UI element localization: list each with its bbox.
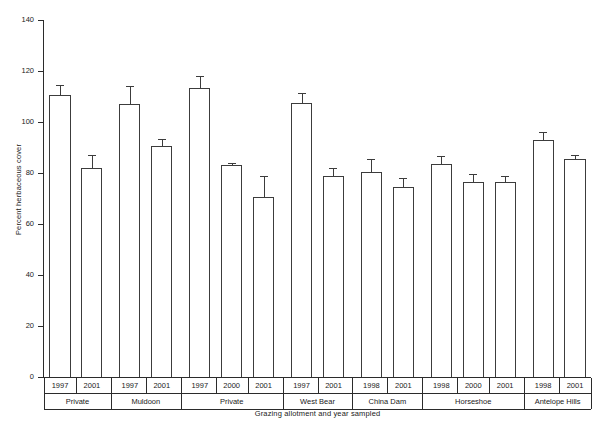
error-bar-cap: [539, 132, 547, 133]
bar: [323, 176, 344, 377]
error-bar-stem: [200, 76, 201, 87]
error-bar-stem: [473, 174, 474, 182]
error-bar-cap: [228, 163, 236, 164]
y-axis-tick: [38, 377, 43, 378]
x-axis-cell-divider: [387, 378, 388, 393]
x-axis-year-label: 2001: [318, 378, 350, 393]
x-axis-group-divider: [181, 378, 182, 409]
x-axis-year-label: 2001: [559, 378, 591, 393]
y-axis-tick: [38, 173, 43, 174]
x-axis-cell-divider: [489, 378, 490, 393]
bar: [151, 146, 172, 377]
error-bar-cap: [437, 156, 445, 157]
x-axis-year-label: 1997: [286, 378, 318, 393]
x-axis-title: Grazing allotment and year sampled: [44, 409, 591, 418]
y-axis-tick-label: 20: [4, 321, 34, 330]
error-bar-cap: [298, 93, 306, 94]
x-axis-year-label: 1998: [425, 378, 457, 393]
bar: [221, 165, 242, 377]
error-bar-cap: [469, 174, 477, 175]
error-bar-cap: [399, 178, 407, 179]
x-axis-group-label: China Dam: [352, 394, 422, 409]
y-axis-tick-label: 0: [4, 372, 34, 381]
y-axis-tick: [38, 326, 43, 327]
error-bar-cap: [196, 76, 204, 77]
bar: [495, 182, 516, 377]
x-axis-group-divider: [524, 378, 525, 409]
error-bar-cap: [260, 176, 268, 177]
bar: [463, 182, 484, 377]
x-axis-cell-divider: [248, 378, 249, 393]
x-axis-group-label: Horseshoe: [422, 394, 524, 409]
y-axis-tick: [38, 122, 43, 123]
x-axis-label-table: 19972001Private19972001Muldoon1997200020…: [44, 377, 591, 409]
x-axis-group-divider: [591, 378, 592, 409]
x-axis-cell-divider: [457, 378, 458, 393]
y-axis-tick: [38, 20, 43, 21]
x-axis-year-label: 2000: [457, 378, 489, 393]
x-axis-cell-divider: [318, 378, 319, 393]
error-bar-stem: [162, 139, 163, 147]
y-axis-title: Percent herbaceous cover: [14, 80, 23, 300]
x-axis-year-label: 2001: [248, 378, 280, 393]
x-axis-group-label: Antelope Hills: [524, 394, 591, 409]
x-axis-cell-divider: [559, 378, 560, 393]
x-axis-year-label: 1997: [114, 378, 146, 393]
y-axis-tick-label: 40: [4, 270, 34, 279]
error-bar-stem: [441, 156, 442, 164]
bar: [564, 159, 585, 377]
x-axis-year-label: 2001: [387, 378, 419, 393]
x-axis-group-divider: [422, 378, 423, 409]
x-axis-cell-divider: [76, 378, 77, 393]
error-bar-stem: [60, 85, 61, 95]
x-axis-cell-divider: [146, 378, 147, 393]
y-axis-tick: [38, 224, 43, 225]
y-axis-tick-label: 100: [4, 117, 34, 126]
error-bar-stem: [333, 168, 334, 176]
bar: [253, 197, 274, 377]
x-axis-group-label: Private: [44, 394, 111, 409]
error-bar-cap: [501, 176, 509, 177]
bar: [49, 95, 70, 377]
chart-container: Percent herbaceous cover 020406080100120…: [0, 0, 597, 431]
x-axis-year-label: 1997: [44, 378, 76, 393]
y-axis-tick: [38, 71, 43, 72]
y-axis-tick-label: 80: [4, 168, 34, 177]
x-axis-year-label: 1998: [355, 378, 387, 393]
y-axis-tick-label: 140: [4, 15, 34, 24]
error-bar-cap: [88, 155, 96, 156]
error-bar-stem: [371, 159, 372, 172]
error-bar-stem: [264, 176, 265, 198]
error-bar-stem: [130, 86, 131, 104]
bar: [81, 168, 102, 377]
x-axis-group-divider: [283, 378, 284, 409]
y-axis-tick-label: 60: [4, 219, 34, 228]
bar: [361, 172, 382, 377]
x-axis-group-label: Muldoon: [111, 394, 181, 409]
error-bar-cap: [158, 139, 166, 140]
bar: [119, 104, 140, 377]
x-axis-group-label: Private: [181, 394, 283, 409]
y-axis-tick: [38, 275, 43, 276]
error-bar-cap: [56, 85, 64, 86]
x-axis-group-divider: [44, 378, 45, 409]
x-axis-cell-divider: [216, 378, 217, 393]
error-bar-cap: [571, 155, 579, 156]
error-bar-stem: [403, 178, 404, 187]
bar: [291, 103, 312, 377]
error-bar-cap: [329, 168, 337, 169]
error-bar-stem: [302, 93, 303, 103]
bar: [393, 187, 414, 377]
x-axis-year-label: 1997: [184, 378, 216, 393]
error-bar-stem: [92, 155, 93, 168]
x-axis-year-label: 2001: [146, 378, 178, 393]
x-axis-group-label: West Bear: [283, 394, 353, 409]
x-axis-year-label: 2001: [489, 378, 521, 393]
x-axis-group-divider: [111, 378, 112, 409]
error-bar-cap: [126, 86, 134, 87]
x-axis-year-label: 2001: [76, 378, 108, 393]
bar: [431, 164, 452, 377]
error-bar-cap: [367, 159, 375, 160]
plot-area: [44, 20, 591, 377]
y-axis-tick-label: 120: [4, 66, 34, 75]
